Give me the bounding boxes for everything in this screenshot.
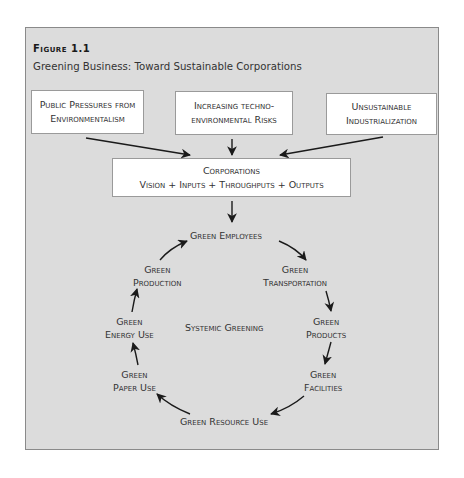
arrow-products-to-facilities: [325, 342, 331, 364]
arrows-layer: [0, 0, 464, 478]
arrow-facilities-to-resource-use: [271, 396, 304, 414]
arrow-resource-use-to-paper-use: [157, 394, 190, 414]
arrow-environmentalism-to-corporations: [86, 138, 190, 155]
arrow-production-to-employees: [160, 241, 187, 260]
arrow-energy-use-to-production: [132, 289, 137, 312]
arrow-employees-to-transportation: [279, 241, 306, 260]
arrow-transportation-to-products: [326, 291, 331, 311]
arrow-paper-use-to-energy-use: [133, 343, 138, 365]
arrow-industrialization-to-corporations: [280, 137, 383, 155]
